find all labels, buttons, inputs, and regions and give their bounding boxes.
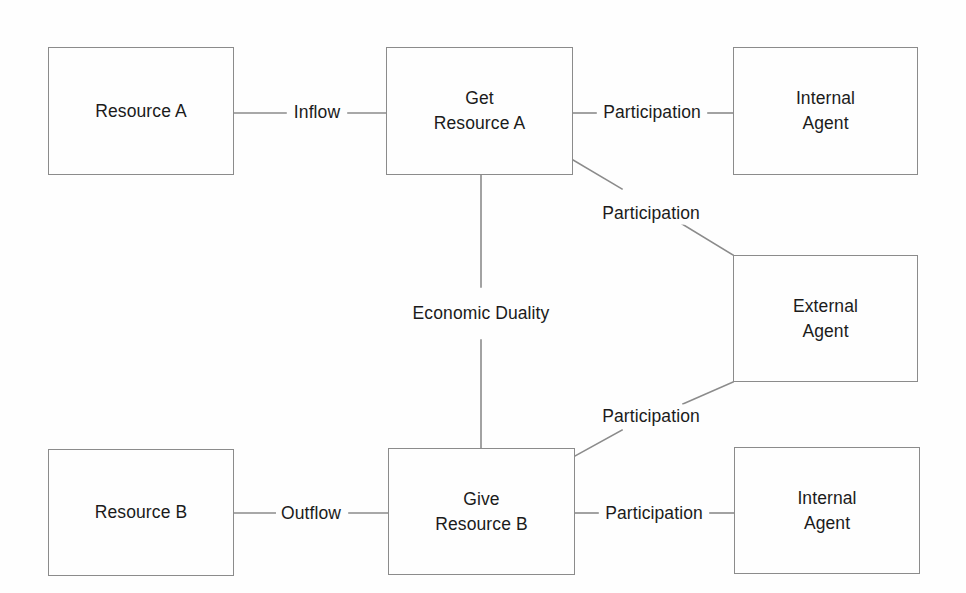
edge-label-participation-bottom: Participation	[600, 502, 708, 525]
edge-label-participation-upper-diagonal: Participation	[597, 202, 705, 225]
edge-label-participation-lower-diagonal: Participation	[597, 405, 705, 428]
connector-line	[683, 382, 733, 404]
connector-line	[682, 224, 733, 255]
node-get-resource-a[interactable]: Get Resource A	[386, 47, 573, 175]
node-resource-b[interactable]: Resource B	[48, 449, 234, 576]
node-external-agent[interactable]: External Agent	[733, 255, 918, 382]
node-internal-agent-top[interactable]: Internal Agent	[733, 47, 918, 175]
node-resource-a[interactable]: Resource A	[48, 47, 234, 175]
connector-line	[573, 160, 622, 189]
node-give-resource-b[interactable]: Give Resource B	[388, 448, 575, 575]
connector-line	[575, 430, 622, 456]
diagram-canvas: Resource AGet Resource AInternal AgentEx…	[0, 0, 966, 593]
edge-label-economic-duality: Economic Duality	[408, 302, 555, 325]
node-internal-agent-bottom[interactable]: Internal Agent	[734, 447, 920, 574]
edge-label-outflow: Outflow	[276, 502, 346, 525]
edge-label-participation-top: Participation	[598, 101, 706, 124]
edge-label-inflow: Inflow	[289, 101, 345, 124]
